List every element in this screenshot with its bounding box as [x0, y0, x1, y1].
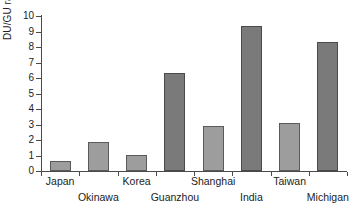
y-axis-tick-label: 5 — [0, 89, 34, 99]
bar — [50, 161, 71, 171]
x-axis-tick — [156, 172, 157, 176]
y-axis-tick-label: 0 — [0, 166, 34, 176]
y-axis-tick-label: 1 — [0, 151, 34, 161]
y-axis-tick-label: 10 — [0, 11, 34, 21]
y-axis-tick-labels: 109876543210 — [0, 0, 34, 215]
x-axis-tick — [41, 172, 42, 176]
y-axis-tick-label: 6 — [0, 73, 34, 83]
bar — [203, 126, 224, 171]
bar — [279, 123, 300, 171]
bar — [241, 26, 262, 171]
x-axis-tick — [118, 172, 119, 176]
x-axis-tick — [271, 172, 272, 176]
bar — [88, 142, 109, 171]
x-axis-tick — [79, 172, 80, 176]
category-label: Japan — [46, 175, 75, 187]
bar — [317, 42, 338, 171]
y-axis-tick-label: 9 — [0, 27, 34, 37]
y-axis-tick-label: 3 — [0, 120, 34, 130]
bar-chart: DU/GU ratio 109876543210 JapanOkinawaKor… — [0, 0, 351, 215]
y-axis-tick-label: 2 — [0, 135, 34, 145]
x-axis-tick — [347, 172, 348, 176]
y-axis-tick-label: 4 — [0, 104, 34, 114]
category-label: Okinawa — [78, 191, 119, 203]
y-axis-line — [41, 15, 42, 172]
category-label: Guanzhou — [151, 191, 199, 203]
category-label: Michigan — [307, 191, 349, 203]
y-axis-tick-label: 7 — [0, 58, 34, 68]
category-label: India — [240, 191, 263, 203]
x-axis-tick — [309, 172, 310, 176]
category-label: Korea — [123, 175, 151, 187]
category-label: Shanghai — [191, 175, 235, 187]
y-axis-tick-label: 8 — [0, 42, 34, 52]
bar — [164, 73, 185, 171]
category-label: Taiwan — [273, 175, 306, 187]
bar — [126, 155, 147, 171]
